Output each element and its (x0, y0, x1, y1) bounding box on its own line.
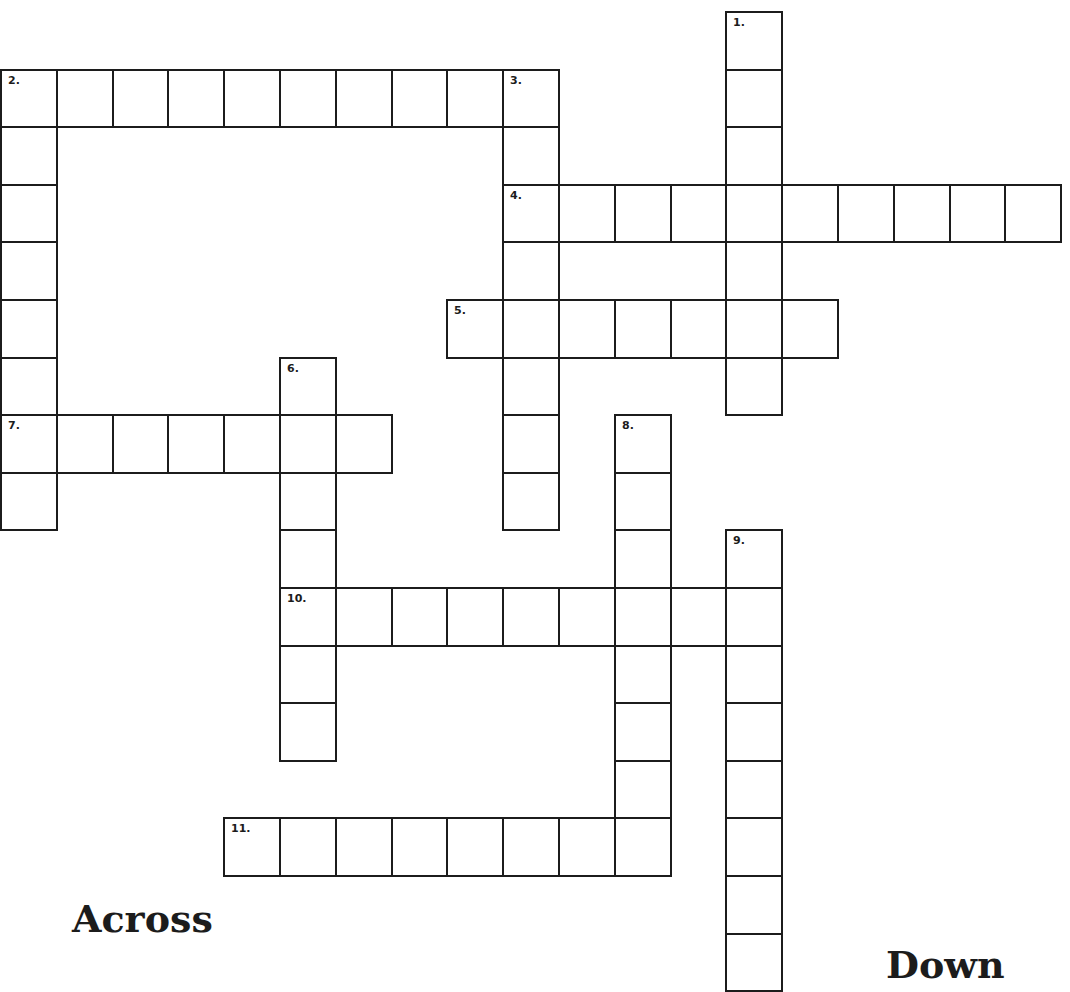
grid-cell[interactable] (279, 702, 337, 762)
grid-cell[interactable] (335, 587, 393, 647)
grid-cell[interactable] (502, 126, 560, 186)
grid-cell[interactable] (223, 414, 281, 474)
grid-cell[interactable] (335, 817, 393, 877)
grid-cell[interactable] (725, 645, 783, 704)
clue-number: 2. (8, 75, 20, 86)
grid-cell[interactable] (279, 529, 337, 589)
grid-cell[interactable] (614, 817, 672, 877)
grid-cell[interactable] (614, 587, 672, 647)
down-heading: Down (886, 946, 1005, 984)
grid-cell[interactable] (781, 184, 839, 243)
grid-cell[interactable] (446, 587, 504, 647)
grid-cell[interactable] (725, 933, 783, 992)
grid-cell[interactable] (670, 587, 727, 647)
grid-cell[interactable] (56, 69, 114, 128)
grid-cell[interactable]: 1. (725, 11, 783, 71)
clue-number: 3. (510, 75, 522, 86)
clue-number: 5. (454, 305, 466, 316)
grid-cell[interactable] (167, 69, 225, 128)
grid-cell[interactable] (558, 184, 616, 243)
grid-cell[interactable] (279, 472, 337, 531)
across-heading: Across (72, 900, 213, 938)
grid-cell[interactable] (502, 241, 560, 301)
grid-cell[interactable] (725, 587, 783, 647)
grid-cell[interactable]: 7. (0, 414, 58, 474)
grid-cell[interactable]: 4. (502, 184, 560, 243)
grid-cell[interactable]: 5. (446, 299, 504, 359)
clue-number: 1. (733, 17, 745, 28)
grid-cell[interactable] (279, 817, 337, 877)
grid-cell[interactable] (502, 587, 560, 647)
grid-cell[interactable] (279, 645, 337, 704)
grid-cell[interactable] (502, 414, 560, 474)
clue-number: 8. (622, 420, 634, 431)
clue-number: 4. (510, 190, 522, 201)
grid-cell[interactable] (112, 414, 169, 474)
grid-cell[interactable] (725, 702, 783, 762)
grid-cell[interactable] (725, 69, 783, 128)
grid-cell[interactable] (391, 817, 448, 877)
grid-cell[interactable] (56, 414, 114, 474)
grid-cell[interactable] (725, 241, 783, 301)
grid-cell[interactable] (558, 587, 616, 647)
grid-cell[interactable] (614, 184, 672, 243)
grid-cell[interactable] (167, 414, 225, 474)
grid-cell[interactable] (446, 817, 504, 877)
grid-cell[interactable] (112, 69, 169, 128)
grid-cell[interactable] (614, 702, 672, 762)
clue-number: 11. (231, 823, 251, 834)
grid-cell[interactable] (558, 817, 616, 877)
clue-number: 6. (287, 363, 299, 374)
grid-cell[interactable] (670, 299, 727, 359)
grid-cell[interactable] (279, 414, 337, 474)
grid-cell[interactable] (725, 760, 783, 819)
grid-cell[interactable] (614, 645, 672, 704)
grid-cell[interactable] (502, 817, 560, 877)
grid-cell[interactable] (391, 69, 448, 128)
grid-cell[interactable] (614, 760, 672, 819)
grid-cell[interactable] (781, 299, 839, 359)
grid-cell[interactable] (335, 414, 393, 474)
grid-cell[interactable]: 9. (725, 529, 783, 589)
grid-cell[interactable] (0, 472, 58, 531)
grid-cell[interactable] (391, 587, 448, 647)
grid-cell[interactable]: 10. (279, 587, 337, 647)
grid-cell[interactable] (0, 126, 58, 186)
grid-cell[interactable] (502, 299, 560, 359)
grid-cell[interactable] (446, 69, 504, 128)
grid-cell[interactable] (0, 184, 58, 243)
clue-number: 9. (733, 535, 745, 546)
grid-cell[interactable] (279, 69, 337, 128)
grid-cell[interactable] (0, 357, 58, 416)
grid-cell[interactable] (502, 357, 560, 416)
grid-cell[interactable] (0, 241, 58, 301)
grid-cell[interactable] (837, 184, 895, 243)
grid-cell[interactable] (725, 126, 783, 186)
grid-cell[interactable] (949, 184, 1006, 243)
grid-cell[interactable] (670, 184, 727, 243)
grid-cell[interactable] (725, 875, 783, 935)
grid-cell[interactable] (725, 184, 783, 243)
clue-number: 10. (287, 593, 307, 604)
grid-cell[interactable]: 2. (0, 69, 58, 128)
grid-cell[interactable] (502, 472, 560, 531)
grid-cell[interactable] (558, 299, 616, 359)
grid-cell[interactable]: 8. (614, 414, 672, 474)
grid-cell[interactable] (614, 299, 672, 359)
grid-cell[interactable] (614, 472, 672, 531)
clue-number: 7. (8, 420, 20, 431)
grid-cell[interactable] (1004, 184, 1062, 243)
grid-cell[interactable]: 11. (223, 817, 281, 877)
grid-cell[interactable] (614, 529, 672, 589)
grid-cell[interactable] (0, 299, 58, 359)
grid-cell[interactable] (725, 299, 783, 359)
grid-cell[interactable] (335, 69, 393, 128)
grid-cell[interactable]: 6. (279, 357, 337, 416)
grid-cell[interactable] (725, 817, 783, 877)
grid-cell[interactable] (223, 69, 281, 128)
grid-cell[interactable] (725, 357, 783, 416)
grid-cell[interactable]: 3. (502, 69, 560, 128)
grid-cell[interactable] (893, 184, 951, 243)
